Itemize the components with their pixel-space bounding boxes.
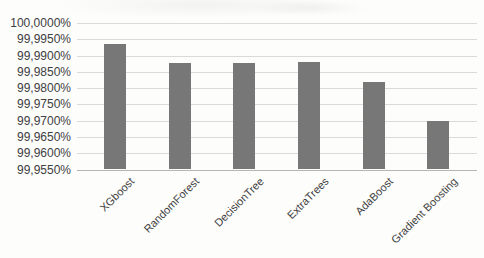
bar-extratrees [298,62,320,169]
x-axis-category-label: ExtraTrees [284,175,330,221]
bar-xgboost [104,44,126,169]
y-axis-tick-label: 99,9900% [17,49,71,63]
x-axis-category-label: XGboost [98,175,137,214]
y-axis-tick-label: 99,9550% [17,163,71,177]
y-axis-tick-label: 99,9950% [17,32,71,46]
gridline [77,137,477,138]
y-axis-tick-label: 99,9650% [17,130,71,144]
gridline [77,56,477,57]
x-axis-line [77,170,477,171]
y-axis-tick-label: 99,9850% [17,65,71,79]
gridline [77,121,477,122]
x-axis-category-label: Gradient Boosting [389,175,460,246]
gridline [77,153,477,154]
x-axis-category-label: DecisionTree [212,175,266,229]
bar-randomforest [169,63,191,170]
gridline [77,23,477,24]
x-axis-category-label: AdaBoost [353,175,395,217]
bar-chart: 100,0000%99,9950%99,9900%99,9850%99,9800… [0,0,484,258]
y-axis-tick-label: 100,0000% [10,16,71,30]
y-axis-tick-label: 99,9600% [17,146,71,160]
gridline [77,104,477,105]
paper-smudge [50,0,350,18]
bar-gradient-boosting [427,121,449,170]
bar-adaboost [363,82,385,170]
paper-smudge [250,0,370,16]
gridline [77,39,477,40]
bar-decisiontree [233,63,255,170]
y-axis-tick-label: 99,9800% [17,81,71,95]
y-axis-tick-label: 99,9700% [17,114,71,128]
y-axis-tick-label: 99,9750% [17,97,71,111]
gridline [77,72,477,73]
x-axis-category-label: RandomForest [141,175,201,235]
gridline [77,88,477,89]
